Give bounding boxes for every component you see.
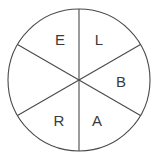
sector-label-right: B xyxy=(116,73,126,90)
sector-label-top-left: E xyxy=(55,31,65,48)
sector-label-top-right: L xyxy=(95,31,103,48)
sector-label-bottom-right: A xyxy=(92,112,102,129)
sector-label-bottom-left: R xyxy=(54,112,65,129)
spinner-wheel-svg: E L B A R xyxy=(0,0,160,162)
spinner-wheel-figure: E L B A R xyxy=(0,0,160,162)
